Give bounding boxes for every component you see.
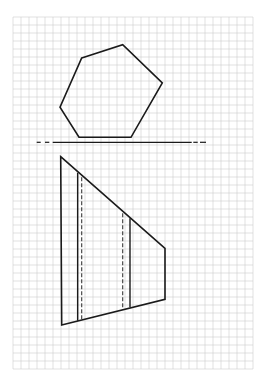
grid-paper (13, 17, 253, 369)
technical-drawing (0, 0, 269, 383)
pentagon-top-view (60, 45, 162, 138)
hidden-edges (82, 177, 123, 319)
